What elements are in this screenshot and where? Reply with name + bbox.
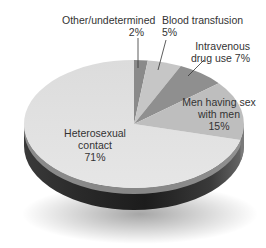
label-other-name: Other/undetermined [62,14,144,26]
label-iv: Intravenous drug use 7% [190,40,250,64]
label-other-value: 2% [62,26,144,38]
label-heterosexual: Heterosexual contact 71% [52,127,138,163]
pie-chart: Other/undetermined 2% Blood transfusion … [0,0,266,248]
label-other: Other/undetermined 2% [62,14,144,38]
label-msm: Men having sex with men 15% [176,96,262,132]
label-blood-value: 5% [162,26,243,38]
label-heterosexual-value: 71% [52,151,138,163]
label-msm-value: 15% [176,120,262,132]
label-heterosexual-name-2: contact [52,139,138,151]
label-msm-name-2: with men [176,108,262,120]
label-iv-value: drug use 7% [190,52,250,64]
label-msm-name-1: Men having sex [176,96,262,108]
label-blood-name: Blood transfusion [162,14,243,26]
label-blood: Blood transfusion 5% [162,14,243,38]
label-heterosexual-name-1: Heterosexual [52,127,138,139]
label-iv-name: Intravenous [190,40,250,52]
